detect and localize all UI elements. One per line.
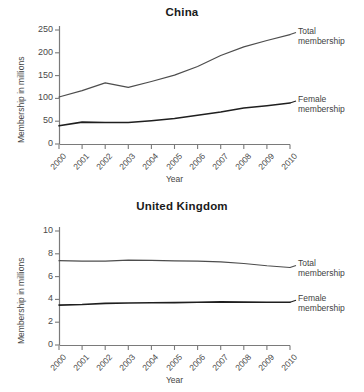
- y-axis-tick-label: 6: [23, 271, 53, 281]
- y-axis-tick-label: 200: [23, 47, 53, 57]
- series-line-female: [59, 103, 290, 126]
- series-line-female: [59, 302, 290, 305]
- y-axis-tick-label: 100: [23, 92, 53, 102]
- y-axis-tick-label: 150: [23, 70, 53, 80]
- annotation-line-2: membership: [298, 36, 345, 46]
- series-leader-line: [290, 300, 296, 302]
- series-annotation-total: Totalmembership: [298, 26, 345, 46]
- y-axis-tick-label: 4: [23, 293, 53, 303]
- y-axis-tick-label: 10: [23, 225, 53, 235]
- series-line-total: [59, 260, 290, 267]
- page-title-china: China: [0, 6, 364, 18]
- series-leader-line: [290, 33, 296, 35]
- annotation-line-1: Total: [298, 258, 316, 268]
- y-axis-tick-label: 0: [23, 138, 53, 148]
- series-annotation-female: Femalemembership: [298, 94, 345, 114]
- chart-figure-china: China Membership in millions Year 050100…: [0, 0, 364, 196]
- series-leader-line: [290, 265, 296, 267]
- y-axis-tick-label: 50: [23, 115, 53, 125]
- annotation-line-2: membership: [298, 268, 345, 278]
- annotation-line-1: Female: [298, 293, 326, 303]
- axes-and-series-china: [59, 30, 292, 146]
- plot-area-china: [59, 30, 290, 144]
- annotation-line-1: Total: [298, 26, 316, 36]
- y-axis-tick-label: 250: [23, 24, 53, 34]
- plot-area-uk: [59, 231, 290, 345]
- y-axis-tick-label: 0: [23, 339, 53, 349]
- chart-figure-uk: United Kingdom Membership in millions Ye…: [0, 196, 364, 392]
- annotation-line-1: Female: [298, 94, 326, 104]
- series-line-total: [59, 35, 290, 97]
- y-axis-tick-label: 8: [23, 248, 53, 258]
- series-annotation-female: Femalemembership: [298, 293, 345, 313]
- annotation-line-2: membership: [298, 104, 345, 114]
- series-leader-line: [290, 101, 296, 103]
- annotation-line-2: membership: [298, 303, 345, 313]
- y-axis-tick-label: 2: [23, 316, 53, 326]
- series-annotation-total: Totalmembership: [298, 258, 345, 278]
- axes-and-series-uk: [59, 231, 292, 347]
- page-title-uk: United Kingdom: [0, 200, 364, 212]
